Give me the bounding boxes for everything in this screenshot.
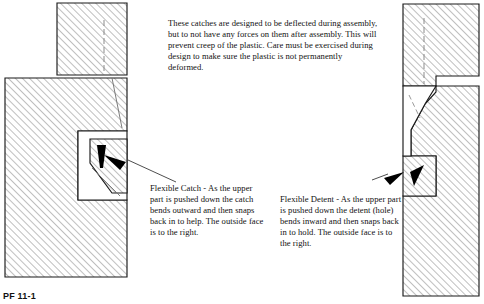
detent-hole: [403, 156, 436, 196]
drawing-sheet: These catches are designed to be deflect…: [0, 0, 484, 304]
flexible-detent-caption: Flexible Detent - As the upper part is p…: [280, 194, 402, 249]
catch-leader-line: [128, 160, 176, 182]
flexible-catch-caption: Flexible Catch - As the upper part is pu…: [150, 183, 268, 238]
figure-label: PF 11-1: [3, 291, 36, 301]
catch-upper-part: [57, 3, 127, 75]
flexible-detent-view: [372, 4, 479, 296]
detent-upper-part: [403, 4, 479, 86]
design-note-text: These catches are designed to be deflect…: [168, 18, 380, 73]
